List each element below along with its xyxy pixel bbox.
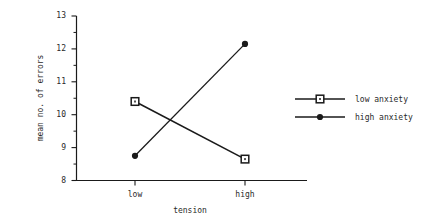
- data-point-marker-center: [244, 158, 246, 160]
- legend-marker-low-anxiety: [295, 95, 345, 103]
- data-point-marker: [242, 41, 248, 47]
- series-low-anxiety: [131, 98, 249, 163]
- y-tick-label-11: 11: [50, 77, 66, 86]
- y-axis-title: mean no. of errors: [36, 38, 45, 158]
- y-tick-label-13: 13: [50, 11, 66, 20]
- y-tick-label-10: 10: [50, 110, 66, 119]
- series-high-anxiety: [132, 41, 248, 159]
- legend-label-low-anxiety: low anxiety: [355, 95, 408, 104]
- chart-figure: 13 12 11 10 9 8 low high tension mean no…: [0, 0, 427, 224]
- data-point-marker-center: [134, 101, 136, 103]
- x-tick-label-high: high: [225, 190, 265, 199]
- y-tick-label-8: 8: [50, 176, 66, 185]
- y-tick-label-12: 12: [50, 44, 66, 53]
- data-point-marker: [132, 153, 138, 159]
- y-tick-label-9: 9: [50, 143, 66, 152]
- legend-marker-high-anxiety: [295, 114, 345, 120]
- x-axis-title: tension: [130, 206, 250, 215]
- x-major-ticks: [135, 181, 245, 186]
- legend-label-high-anxiety: high anxiety: [355, 113, 413, 122]
- x-tick-label-low: low: [115, 190, 155, 199]
